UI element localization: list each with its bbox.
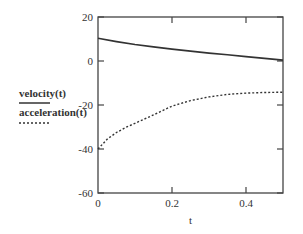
y-tick-label: -40 xyxy=(78,143,93,155)
legend-label-acceleration: acceleration(t) xyxy=(19,106,87,119)
y-tick-label: 20 xyxy=(82,11,94,23)
x-tick-label: 0 xyxy=(95,197,101,209)
chart: 200-20-40-6000.20.4t velocity(t)accelera… xyxy=(0,0,303,234)
acceleration-line xyxy=(98,92,283,149)
x-tick-label: 0.2 xyxy=(165,197,179,209)
y-tick-label: 0 xyxy=(88,55,94,67)
x-axis-label: t xyxy=(189,214,192,226)
y-tick-label: -60 xyxy=(78,187,93,199)
legend-label-velocity: velocity(t) xyxy=(19,87,66,100)
velocity-line xyxy=(98,38,283,60)
x-tick-label: 0.4 xyxy=(239,197,253,209)
